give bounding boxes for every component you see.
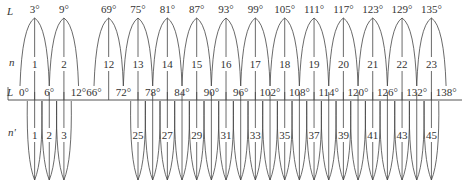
three-degree-zone: 39 bbox=[336, 92, 351, 180]
central-meridian-label: 129° bbox=[392, 3, 413, 15]
three-degree-zone: 43 bbox=[395, 92, 410, 180]
three-degree-zone: 1 bbox=[27, 92, 42, 180]
zone-number-label: 23 bbox=[426, 58, 438, 70]
zone-number-label: 16 bbox=[221, 58, 233, 70]
central-meridian-label: 123° bbox=[362, 3, 383, 15]
three-degree-zone: 31 bbox=[219, 92, 234, 180]
three-degree-zone bbox=[351, 92, 366, 180]
central-meridian-label: 99° bbox=[248, 3, 263, 15]
zone-number-label: 14 bbox=[162, 58, 174, 70]
central-meridian-label: 69° bbox=[101, 3, 116, 15]
three-degree-zone-label: 31 bbox=[221, 129, 232, 141]
three-degree-zone bbox=[409, 92, 424, 180]
central-meridian-label: 87° bbox=[189, 3, 204, 15]
zone-division-diagram: L n L n' 3°19°269°1275°1381°1487°1593°16… bbox=[0, 0, 469, 196]
boundary-label: 0° bbox=[19, 86, 29, 98]
zone-number-label: 17 bbox=[250, 58, 262, 70]
three-degree-zone: 41 bbox=[365, 92, 380, 180]
three-degree-zone: 35 bbox=[277, 92, 292, 180]
three-degree-zone-label: 3 bbox=[61, 129, 67, 141]
central-meridian-label: 117° bbox=[333, 3, 354, 15]
central-meridian-label: 75° bbox=[130, 3, 145, 15]
zone-number-label: 22 bbox=[397, 58, 408, 70]
three-degree-zone-label: 37 bbox=[309, 129, 321, 141]
three-degree-zone: 29 bbox=[189, 92, 204, 180]
three-degree-zone-label: 39 bbox=[338, 129, 350, 141]
three-degree-zone-label: 1 bbox=[32, 129, 38, 141]
three-degree-zone bbox=[233, 92, 248, 180]
boundary-label: 138° bbox=[436, 86, 457, 98]
central-meridian-label: 81° bbox=[160, 3, 175, 15]
three-degree-zone-label: 35 bbox=[279, 129, 291, 141]
three-degree-zone-label: 45 bbox=[426, 129, 438, 141]
three-degree-zone bbox=[145, 92, 160, 180]
three-degree-zone: 3 bbox=[56, 92, 71, 180]
zone-number-label: 19 bbox=[309, 58, 321, 70]
central-meridian-label: 9° bbox=[59, 3, 69, 15]
boundary-label: 66° bbox=[86, 86, 101, 98]
zone-number-label: 20 bbox=[338, 58, 350, 70]
central-meridian-label: 135° bbox=[421, 3, 442, 15]
zone-number-label: 15 bbox=[191, 58, 203, 70]
boundary-labels: 0°6°12°66°72°78°84°90°96°102°108°114°120… bbox=[8, 86, 457, 100]
three-degree-zone: 27 bbox=[160, 92, 175, 180]
boundary-label: 12° bbox=[71, 86, 86, 98]
zone-number-label: 21 bbox=[367, 58, 378, 70]
zone-number-label: 12 bbox=[103, 58, 114, 70]
three-degree-zone-label: 25 bbox=[133, 129, 145, 141]
three-degree-zone-label: 41 bbox=[367, 129, 378, 141]
three-degree-zone: 33 bbox=[248, 92, 263, 180]
three-degree-zone bbox=[292, 92, 307, 180]
zone-number-label: 18 bbox=[279, 58, 291, 70]
three-degree-zone bbox=[380, 92, 395, 180]
row-label-mid-L: L bbox=[6, 86, 13, 98]
central-meridian-label: 111° bbox=[304, 3, 324, 15]
zone-number-label: 2 bbox=[61, 58, 67, 70]
three-degree-zone-label: 29 bbox=[191, 129, 203, 141]
central-meridian-label: 105° bbox=[274, 3, 295, 15]
row-label-n: n bbox=[9, 56, 15, 68]
row-label-top-L: L bbox=[6, 5, 13, 17]
three-degree-zone-label: 2 bbox=[47, 129, 53, 141]
three-degree-zone: 2 bbox=[42, 92, 57, 180]
three-degree-zone-label: 33 bbox=[250, 129, 262, 141]
zone-number-label: 13 bbox=[133, 58, 145, 70]
three-degree-zone: 45 bbox=[424, 92, 439, 180]
three-degree-zone-label: 27 bbox=[162, 129, 174, 141]
row-label-n-prime: n' bbox=[8, 126, 17, 138]
three-degree-zone: 25 bbox=[131, 92, 146, 180]
three-degree-zone bbox=[263, 92, 278, 180]
three-degree-zones: 1232527293133353739414345 bbox=[27, 92, 439, 180]
boundary-label: 72° bbox=[116, 86, 131, 98]
three-degree-zone bbox=[204, 92, 219, 180]
three-degree-zone-label: 43 bbox=[397, 129, 409, 141]
central-meridian-label: 93° bbox=[218, 3, 233, 15]
three-degree-zone: 37 bbox=[307, 92, 322, 180]
central-meridian-label: 3° bbox=[30, 3, 40, 15]
three-degree-zone bbox=[175, 92, 190, 180]
zone-number-label: 1 bbox=[32, 58, 38, 70]
three-degree-zone bbox=[321, 92, 336, 180]
